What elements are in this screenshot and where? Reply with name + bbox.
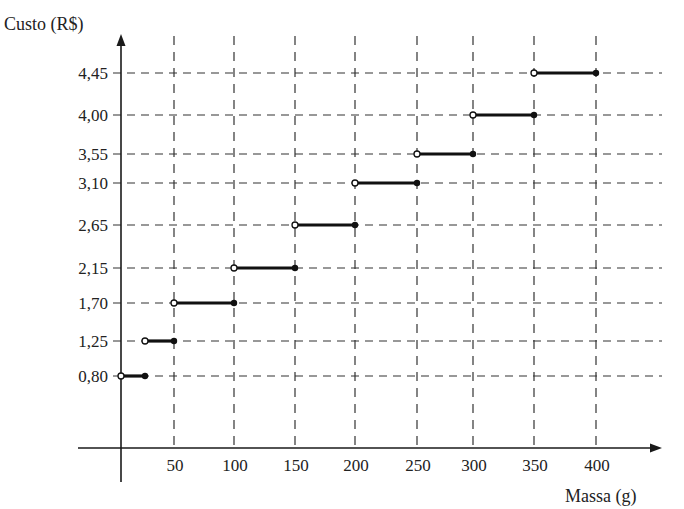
open-endpoint-icon bbox=[171, 300, 177, 306]
closed-endpoint-icon bbox=[171, 338, 177, 344]
open-endpoint-icon bbox=[414, 151, 420, 157]
axes bbox=[78, 34, 662, 482]
closed-endpoint-icon bbox=[531, 112, 537, 118]
x-axis-title: Massa (g) bbox=[565, 486, 636, 507]
x-tick-label: 350 bbox=[522, 456, 548, 475]
step-function-chart: 0,801,251,702,152,653,103,554,004,455010… bbox=[0, 0, 684, 509]
closed-endpoint-icon bbox=[292, 265, 298, 271]
closed-endpoint-icon bbox=[142, 373, 148, 379]
y-tick-label: 1,25 bbox=[78, 332, 108, 351]
open-endpoint-icon bbox=[352, 180, 358, 186]
open-endpoint-icon bbox=[231, 265, 237, 271]
open-endpoint-icon bbox=[292, 222, 298, 228]
open-endpoint-icon bbox=[531, 70, 537, 76]
closed-endpoint-icon bbox=[231, 300, 237, 306]
x-tick-label: 400 bbox=[584, 456, 610, 475]
y-tick-label: 1,70 bbox=[78, 294, 108, 313]
y-tick-label: 3,55 bbox=[78, 145, 108, 164]
y-tick-label: 2,65 bbox=[78, 216, 108, 235]
open-endpoint-icon bbox=[118, 373, 124, 379]
closed-endpoint-icon bbox=[414, 180, 420, 186]
x-tick-label: 250 bbox=[405, 456, 431, 475]
open-endpoint-icon bbox=[142, 338, 148, 344]
x-tick-label: 150 bbox=[283, 456, 309, 475]
x-axis-arrow-icon bbox=[650, 444, 662, 453]
tick-labels: 0,801,251,702,152,653,103,554,004,455010… bbox=[78, 64, 610, 475]
closed-endpoint-icon bbox=[470, 151, 476, 157]
x-tick-label: 200 bbox=[343, 456, 369, 475]
closed-endpoint-icon bbox=[593, 70, 599, 76]
grid-lines bbox=[113, 36, 662, 448]
y-tick-label: 4,00 bbox=[78, 106, 108, 125]
y-tick-label: 4,45 bbox=[78, 64, 108, 83]
y-tick-label: 2,15 bbox=[78, 259, 108, 278]
y-axis-title: Custo (R$) bbox=[4, 14, 84, 35]
x-tick-label: 50 bbox=[167, 456, 184, 475]
y-axis-arrow-icon bbox=[117, 34, 126, 46]
closed-endpoint-icon bbox=[352, 222, 358, 228]
x-tick-label: 300 bbox=[461, 456, 487, 475]
x-tick-label: 100 bbox=[222, 456, 248, 475]
y-tick-label: 3,10 bbox=[78, 174, 108, 193]
open-endpoint-icon bbox=[470, 112, 476, 118]
y-tick-label: 0,80 bbox=[78, 367, 108, 386]
